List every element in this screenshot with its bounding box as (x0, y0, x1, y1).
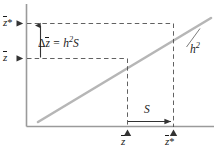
x-axis-tick-label-left: z (121, 136, 125, 147)
x-axis-tick-label-right: z* (165, 136, 175, 147)
slope-label-exponent: 2 (196, 41, 200, 50)
x-axis-tick-label-right-star: * (169, 136, 174, 147)
response-equation: Δz = h2S (38, 36, 79, 49)
x-axis-tick-label-left-base: z (121, 136, 125, 147)
y-tick-marker-bottom (17, 55, 24, 61)
x-axis-tick-label-right-base: z (165, 136, 169, 147)
selection-differential-label: S (144, 104, 150, 116)
regression-line (38, 18, 211, 122)
y-axis-tick-label-bottom-base: z (3, 52, 7, 63)
axis-lines (27, 4, 215, 127)
breeders-equation-figure: z* z Δz = h2S S h2 z z* (0, 0, 217, 155)
y-axis-tick-label-top: z* (3, 17, 13, 28)
selection-differential-symbol: S (73, 37, 79, 49)
figure-canvas (0, 0, 217, 155)
equation-trait-mean: z (45, 38, 49, 50)
y-axis-tick-label-top-star: * (7, 17, 12, 28)
y-axis-tick-label-top-base: z (3, 17, 7, 28)
y-tick-marker-top (17, 20, 24, 26)
slope-label: h2 (190, 42, 200, 55)
y-axis-tick-label-bottom: z (3, 52, 7, 63)
y-axis-tick-markers (17, 20, 24, 61)
